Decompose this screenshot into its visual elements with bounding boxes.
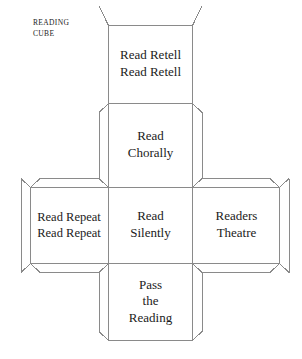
face-label-top: Read Retell Read Retell	[108, 25, 193, 103]
face-label-left-line1: Read Repeat	[37, 209, 101, 225]
face-label-top-line2: Read Retell	[120, 64, 181, 81]
face-label-bottom-line1: Pass	[139, 277, 162, 294]
flap-top-right	[193, 6, 203, 26]
face-label-left-line2: Read Repeat	[37, 225, 101, 241]
face-label-top-line1: Read Retell	[120, 47, 181, 64]
reading-cube-label-line1: READING	[33, 18, 103, 29]
face-label-bottom: Pass the Reading	[108, 263, 193, 340]
face-label-center-line1: Read	[137, 208, 164, 225]
flap-row-far-right	[280, 179, 290, 273]
notch-left-bottom	[31, 264, 100, 273]
reading-cube-label-line2: CUBE	[33, 29, 103, 40]
face-label-upper-mid-line2: Chorally	[128, 145, 174, 162]
face-label-upper-mid: Read Chorally	[108, 103, 193, 187]
reading-cube-figure: READING CUBE Read Retell Read Retell Rea…	[0, 0, 302, 359]
face-label-center: Read Silently	[108, 187, 193, 263]
face-label-bottom-line2: the	[143, 293, 159, 310]
face-label-right-line2: Theatre	[217, 225, 257, 242]
face-label-left: Read Repeat Read Repeat	[30, 187, 108, 263]
face-label-center-line2: Silently	[130, 225, 170, 242]
flap-bottom-edge-right	[193, 332, 203, 341]
bottom-clipped-caption	[0, 351, 302, 359]
flap-bottom-right	[193, 264, 203, 341]
reading-cube-label: READING CUBE	[33, 18, 103, 40]
face-label-right: Readers Theatre	[193, 187, 280, 263]
face-label-right-line1: Readers	[216, 208, 258, 225]
face-label-upper-mid-line1: Read	[137, 128, 164, 145]
face-label-bottom-line3: Reading	[129, 310, 172, 327]
notch-right-bottom	[202, 264, 280, 273]
flap-upper-mid-right	[193, 104, 203, 188]
